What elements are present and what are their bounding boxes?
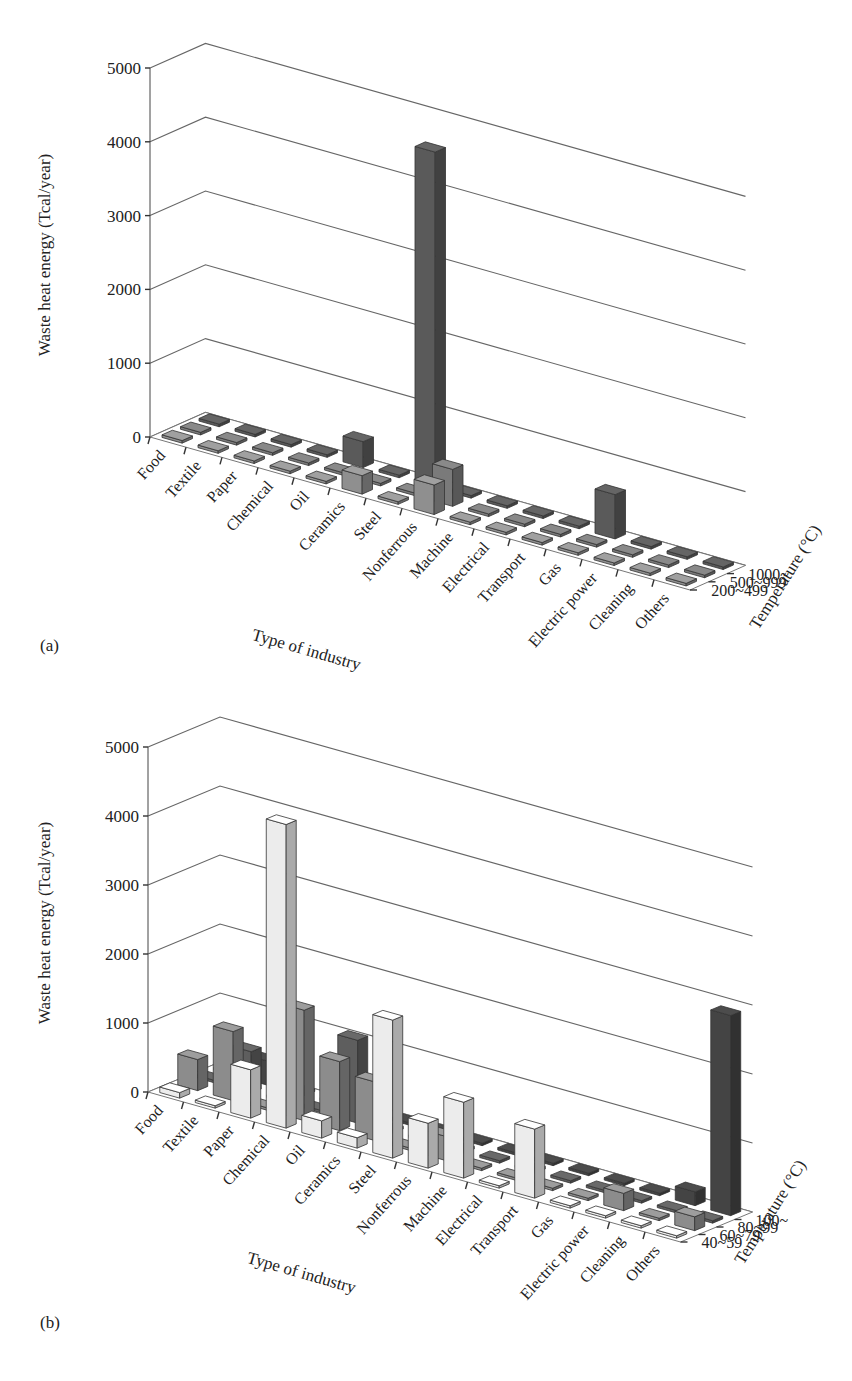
bar-side-face [198, 1055, 208, 1090]
bar-side-face [304, 1006, 314, 1121]
panel-label-a: (a) [40, 636, 59, 656]
bar [302, 1111, 332, 1138]
y-tick-label: 3000 [105, 876, 139, 895]
bar-front-face [415, 146, 435, 488]
x-tick [328, 488, 330, 495]
bar [343, 431, 374, 467]
bar-side-face [731, 1011, 741, 1215]
category-label: Paper [200, 1121, 238, 1161]
y-tick-label: 1000 [107, 354, 141, 373]
x-tick [292, 478, 294, 485]
y-tick-label: 0 [131, 1083, 140, 1102]
y-tick-label: 5000 [105, 738, 139, 757]
x-tick [400, 508, 402, 515]
bar [178, 1050, 208, 1091]
bar-front-face [373, 1015, 393, 1159]
bar-side-face [286, 820, 296, 1128]
x-tick [537, 1202, 539, 1209]
bar-side-face [434, 480, 444, 514]
bar [342, 465, 373, 494]
x-tick [324, 1142, 326, 1149]
gridline [150, 265, 746, 418]
category-label: Steel [345, 1161, 379, 1197]
gridline [148, 855, 753, 1005]
y-tick-label: 2000 [107, 280, 141, 299]
category-label: Others [622, 1242, 663, 1285]
plot-area: 010002000300040005000FoodTextilePaperChe… [35, 717, 810, 1303]
gridline [148, 786, 753, 936]
x-tick [359, 1152, 361, 1159]
bar [444, 1092, 474, 1178]
x-tick [608, 1222, 610, 1229]
gridline [148, 717, 753, 867]
bar-side-face [435, 148, 445, 488]
panel-label-b: (b) [40, 1313, 60, 1333]
y-axis-title: Waste heat energy (Tcal/year) [35, 822, 54, 1024]
category-label: Electric power [517, 1221, 594, 1303]
bar-side-face [535, 1125, 545, 1198]
gridline [150, 117, 746, 270]
x-tick [182, 1102, 184, 1109]
gridline [150, 43, 746, 196]
category-label: Electric power [525, 569, 602, 651]
x-tick [220, 457, 222, 464]
bar-front-face [178, 1054, 198, 1091]
bar [711, 1006, 741, 1216]
x-tick [148, 437, 150, 444]
y-tick-label: 0 [133, 428, 142, 447]
bar [604, 1184, 634, 1211]
bar-front-face [213, 1026, 233, 1101]
bar [595, 484, 626, 539]
bar-side-face [363, 437, 373, 467]
category-label: Paper [203, 467, 241, 507]
x-tick [364, 498, 366, 505]
y-tick-label: 1000 [105, 1014, 139, 1033]
bar [414, 475, 445, 515]
x-tick [580, 559, 582, 566]
x-tick [256, 468, 258, 475]
category-label: Others [631, 590, 672, 633]
bar [408, 1114, 438, 1169]
bar-front-face [711, 1010, 731, 1216]
x-tick [508, 539, 510, 546]
bar-side-face [453, 465, 463, 506]
plot-area: 010002000300040005000FoodTextilePaperChe… [35, 43, 825, 674]
bar-side-face [615, 490, 625, 539]
x-tick [253, 1122, 255, 1129]
category-label: Food [131, 1102, 166, 1138]
x-tick [146, 1092, 148, 1099]
bar-front-face [408, 1118, 428, 1168]
bar-front-face [231, 1064, 251, 1118]
bar-front-face [414, 479, 434, 514]
y-axis-title: Waste heat energy (Tcal/year) [35, 154, 54, 356]
x-tick [544, 549, 546, 556]
x-tick [472, 529, 474, 536]
bar-side-face [393, 1016, 403, 1158]
x-tick [430, 1172, 432, 1179]
category-label: Gas [527, 1212, 556, 1242]
chart-b-3d-bar: 010002000300040005000FoodTextilePaperChe… [0, 690, 852, 1381]
bars [160, 815, 741, 1238]
bar-front-face [515, 1124, 535, 1199]
chart-a-3d-bar: 010002000300040005000FoodTextilePaperChe… [0, 0, 852, 690]
bar-side-face [428, 1119, 438, 1168]
y-tick-label: 2000 [105, 945, 139, 964]
bar [415, 142, 446, 488]
category-label: Gas [535, 559, 564, 589]
x-tick [616, 570, 618, 577]
bar [515, 1119, 545, 1198]
x-axis-title: Type of industry [250, 625, 364, 674]
x-tick [501, 1192, 503, 1199]
bar-front-face [444, 1097, 464, 1179]
bar [266, 815, 296, 1128]
category-label: Textile [159, 1112, 201, 1156]
bar-side-face [340, 1057, 350, 1130]
bar-front-face [266, 819, 286, 1128]
y-tick-label: 4000 [107, 133, 141, 152]
x-tick [395, 1162, 397, 1169]
category-label: Oil [282, 1141, 309, 1168]
x-tick [643, 1232, 645, 1239]
bar-side-face [251, 1066, 261, 1119]
category-label: Textile [162, 457, 204, 501]
y-tick-label: 5000 [107, 59, 141, 78]
